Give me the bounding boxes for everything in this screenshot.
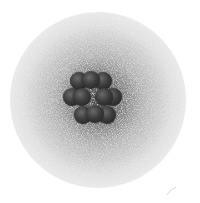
nucleon xyxy=(73,88,91,106)
stray-pen-mark xyxy=(166,186,178,196)
nucleon xyxy=(95,88,113,106)
nucleon xyxy=(86,105,104,123)
atom-illustration xyxy=(0,0,200,203)
nucleon xyxy=(82,71,100,89)
